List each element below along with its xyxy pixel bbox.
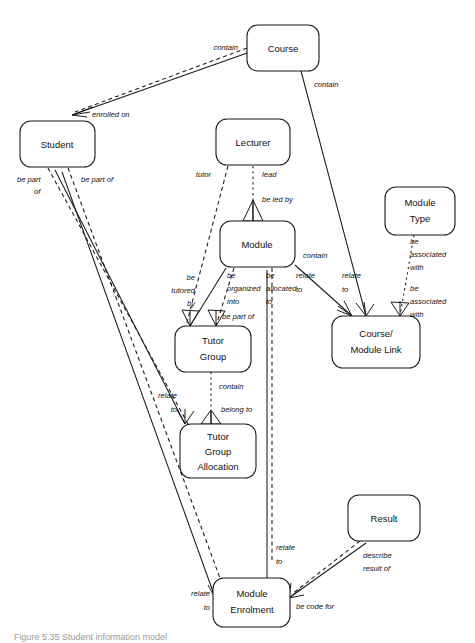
entity-tga-label-line1: Tutor <box>207 431 229 442</box>
entity-tga-label-line2: Group <box>205 446 231 457</box>
entity-student[interactable]: Student <box>20 121 95 167</box>
line-modenrol-relate-to-student <box>62 172 216 600</box>
entity-tutor-group-label-line1: Tutor <box>202 335 224 346</box>
label-be-assoc-with-bottom-line1: be <box>410 284 418 293</box>
entity-result-label: Result <box>371 513 398 524</box>
label-contain-tutorgroup-tga: contain <box>219 382 244 391</box>
label-be-tutored-by-line3: by <box>187 299 196 308</box>
entity-tutor-group-box[interactable] <box>175 326 251 372</box>
label-be-assoc-with-top-line1: be <box>410 237 418 246</box>
entity-layer: Course Student Lecturer Module Module <box>20 25 455 627</box>
entity-module-type-box[interactable] <box>385 187 455 235</box>
er-diagram-svg: Course Student Lecturer Module Module <box>0 0 475 643</box>
label-relate-to-modenrol-line1: relate <box>276 543 295 552</box>
label-be-part-of-module: be part of <box>222 312 255 321</box>
label-be-assoc-with-bottom-line3: with <box>410 310 424 319</box>
entity-module-label: Module <box>241 239 272 250</box>
crowfoot-tga-belong-to <box>201 410 221 424</box>
line-student-be-part-of-modenrol <box>68 168 220 578</box>
entity-module-enrolment[interactable]: Module Enrolment <box>213 578 290 627</box>
label-be-organized-into-line1: be <box>227 271 235 280</box>
label-relate-to-course-line2: to <box>342 285 348 294</box>
label-be-assoc-with-bottom-line2: associated <box>410 297 447 306</box>
entity-course-module-link[interactable]: Course/ Module Link <box>332 316 420 368</box>
label-be-assoc-with-top-line2: associated <box>410 250 447 259</box>
entity-module-type-label-line2: Type <box>410 213 431 224</box>
label-describe-result-of-line1: describe <box>363 551 392 560</box>
label-be-assoc-with-top-line3: with <box>410 263 424 272</box>
entity-course-module-link-label-line2: Module Link <box>350 344 401 355</box>
label-relate-to-student-line1: relate <box>191 589 210 598</box>
label-relate-to-module-line2: to <box>296 285 302 294</box>
crowfoot-cmlink-be-assoc-with <box>391 301 409 316</box>
entity-result[interactable]: Result <box>348 495 420 541</box>
line-student-be-part-of-tga <box>48 168 188 424</box>
entity-tutor-group[interactable]: Tutor Group <box>175 326 251 372</box>
label-be-led-by: be led by <box>262 195 294 204</box>
label-be-part-of-left-line1: be part <box>17 175 42 184</box>
figure-caption: Figure 5.35 Student information model <box>14 632 167 642</box>
line-modenrol-be-code-for-result <box>289 543 366 598</box>
entity-course-module-link-label-line1: Course/ <box>359 328 393 339</box>
entity-lecturer[interactable]: Lecturer <box>216 119 290 165</box>
label-relate-to-tga-line2: to <box>171 405 177 414</box>
line-course-contain-student <box>75 48 247 112</box>
label-describe-result-of-line2: result of <box>363 564 391 573</box>
label-be-allocated-to-line3: to <box>266 297 272 306</box>
entity-modenrol-label-line1: Module <box>236 588 267 599</box>
label-be-part-of-right: be part of <box>81 175 114 184</box>
entity-tutor-group-label-line2: Group <box>200 351 226 362</box>
entity-tutor-group-allocation[interactable]: Tutor Group Allocation <box>180 424 256 478</box>
entity-tga-label-line3: Allocation <box>197 461 238 472</box>
label-relate-to-modenrol-line2: to <box>276 557 282 566</box>
label-lead: lead <box>262 170 277 179</box>
line-result-describe-result-of-modenrol <box>292 541 360 594</box>
entity-course-label: Course <box>268 43 299 54</box>
entity-course-module-link-box[interactable] <box>332 316 420 368</box>
entity-module-type-label-line1: Module <box>404 197 435 208</box>
label-relate-to-course-line1: relate <box>342 271 361 280</box>
label-tutor: tutor <box>196 170 212 179</box>
crowfoot-cmlink-relate-to-course <box>356 302 374 316</box>
entity-modenrol-label-line2: Enrolment <box>230 604 274 615</box>
label-be-tutored-by-line1: be <box>187 273 195 282</box>
label-be-allocated-to-line1: be <box>266 271 274 280</box>
label-enrolled-on: enrolled on <box>92 110 130 119</box>
entity-module-enrolment-box[interactable] <box>213 578 290 627</box>
label-relate-to-module-line1: relate <box>296 271 315 280</box>
label-be-organized-into-line3: into <box>227 297 239 306</box>
label-be-code-for: be code for <box>296 602 334 611</box>
label-contain-module-cmlink: contain <box>303 251 328 260</box>
label-be-part-of-left-line2: of <box>34 187 41 196</box>
crowfoot-tutorgroup-be-part-of <box>182 310 199 326</box>
entity-course[interactable]: Course <box>247 25 319 71</box>
label-contain-course-cmlink: contain <box>314 80 339 89</box>
label-be-tutored-by-line2: tutored <box>171 286 195 295</box>
entity-module-type[interactable]: Module Type <box>385 187 455 235</box>
crowfoot-module-be-led-by <box>243 200 263 221</box>
entity-student-label: Student <box>41 139 74 150</box>
crowfoot-tga-relate-to-student <box>177 409 194 424</box>
er-diagram-canvas: Course Student Lecturer Module Module <box>0 0 475 643</box>
label-be-organized-into-line2: organized <box>227 284 261 293</box>
entity-module[interactable]: Module <box>220 221 295 267</box>
label-belong-to: belong to <box>221 405 252 414</box>
label-relate-to-tga-line1: relate <box>158 391 177 400</box>
label-be-allocated-to-line2: allocated <box>266 284 297 293</box>
line-student-enrolled-on-course <box>72 52 250 115</box>
entity-lecturer-label: Lecturer <box>236 137 271 148</box>
label-relate-to-student-line2: to <box>204 603 210 612</box>
label-contain-course-student: contain <box>214 43 239 52</box>
